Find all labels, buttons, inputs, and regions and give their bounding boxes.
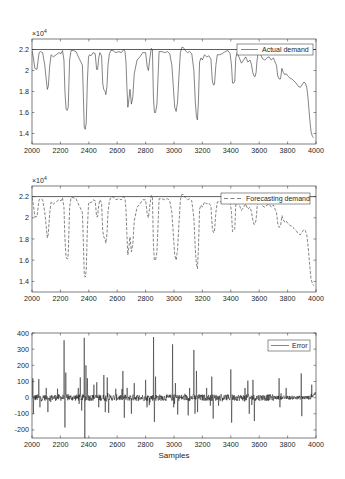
legend-label: Forecasting demand — [246, 195, 310, 203]
x-tick-label: 3800 — [280, 146, 296, 155]
y-tick-label: 300 — [17, 345, 29, 354]
y-tick-label: 1.8 — [19, 87, 29, 96]
legend-label: Actual demand — [262, 46, 309, 53]
y-tick-label: 2.2 — [19, 192, 29, 201]
x-tick-label: 3400 — [223, 440, 239, 449]
chart-error: 2000220024002600280030003200340036003800… — [15, 329, 324, 461]
x-tick-label: 2000 — [24, 146, 40, 155]
legend-label: Error — [292, 342, 308, 349]
y-tick-label: 2 — [25, 213, 29, 222]
x-tick-label: 2800 — [138, 146, 154, 155]
x-tick-label: 3200 — [194, 146, 210, 155]
x-tick-label: 4000 — [308, 440, 324, 449]
x-tick-label: 2200 — [52, 294, 68, 303]
y-tick-label: 1.4 — [19, 129, 29, 138]
x-tick-label: 3400 — [223, 294, 239, 303]
x-tick-label: 2400 — [81, 146, 97, 155]
x-tick-label: 2200 — [52, 440, 68, 449]
x-tick-label: 2400 — [81, 440, 97, 449]
x-tick-label: 2400 — [81, 294, 97, 303]
y-tick-label: 400 — [17, 329, 29, 338]
x-tick-label: 2200 — [52, 146, 68, 155]
x-tick-label: 2600 — [109, 294, 125, 303]
figure: 2000220024002600280030003200340036003800… — [0, 0, 345, 479]
x-tick-label: 3600 — [251, 440, 267, 449]
x-tick-label: 2800 — [138, 294, 154, 303]
x-tick-label: 3200 — [194, 294, 210, 303]
legend: Forecasting demand — [221, 193, 310, 204]
x-tick-label: 3600 — [251, 294, 267, 303]
x-tick-label: 3000 — [166, 440, 182, 449]
x-tick-label: 3400 — [223, 146, 239, 155]
y-exponent-label: ×104 — [32, 175, 47, 184]
y-tick-label: 100 — [17, 377, 29, 386]
x-tick-label: 3600 — [251, 146, 267, 155]
x-tick-label: 2600 — [109, 440, 125, 449]
y-exponent-label: ×104 — [32, 28, 47, 37]
x-tick-label: 2000 — [24, 294, 40, 303]
x-tick-label: 3000 — [166, 294, 182, 303]
y-tick-label: 0 — [25, 393, 29, 402]
y-tick-label: 1.6 — [19, 256, 29, 265]
chart-forecasting-demand: 2000220024002600280030003200340036003800… — [19, 175, 324, 303]
y-tick-label: 1.8 — [19, 235, 29, 244]
y-tick-label: 2.2 — [19, 45, 29, 54]
chart-actual-demand: 2000220024002600280030003200340036003800… — [19, 28, 324, 155]
x-tick-label: 2800 — [138, 440, 154, 449]
x-tick-label: 3800 — [280, 440, 296, 449]
x-axis-label: Samples — [158, 451, 189, 460]
y-tick-label: 2 — [25, 66, 29, 75]
y-tick-label: 1.4 — [19, 277, 29, 286]
x-tick-label: 4000 — [308, 294, 324, 303]
x-tick-label: 3800 — [280, 294, 296, 303]
x-tick-label: 3200 — [194, 440, 210, 449]
x-tick-label: 3000 — [166, 146, 182, 155]
y-tick-label: -100 — [15, 409, 29, 418]
x-tick-label: 2000 — [24, 440, 40, 449]
x-tick-label: 2600 — [109, 146, 125, 155]
y-tick-label: -200 — [15, 425, 29, 434]
legend: Error — [268, 340, 310, 351]
legend: Actual demand — [237, 44, 313, 55]
x-tick-label: 4000 — [308, 146, 324, 155]
y-tick-label: 200 — [17, 361, 29, 370]
y-tick-label: 1.6 — [19, 108, 29, 117]
